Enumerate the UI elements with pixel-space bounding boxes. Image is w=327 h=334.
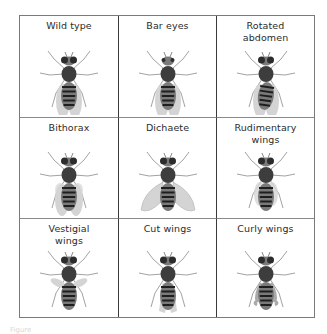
cell-cut-wings: Cut wings [119,219,217,317]
cell-rudimentary-wings: Rudimentary wings [217,118,314,219]
cell-vestigial-wings: Vestigial wings [20,219,119,317]
cell-label: Dichaete [119,122,216,134]
cell-bithorax: Bithorax [20,118,119,219]
cell-wild-type: Wild type [20,16,119,118]
fly-illustration-icon [233,142,299,216]
cell-label: Bar eyes [119,20,216,32]
fly-illustration-icon [36,41,102,115]
cell-bar-eyes: Bar eyes [119,16,217,118]
mutant-fly-grid: Wild type Bar eyes R [19,15,315,318]
fly-illustration-icon [36,142,102,216]
cell-label: Wild type [20,20,118,32]
cell-label: Cut wings [119,223,216,235]
fly-illustration-icon [233,41,299,115]
fly-illustration-icon [135,142,201,216]
cell-curly-wings: Curly wings [217,219,314,317]
fly-illustration-icon [135,241,201,315]
fly-illustration-icon [233,241,299,315]
cell-dichaete: Dichaete [119,118,217,219]
fly-illustration-icon [36,241,102,315]
cell-label: Bithorax [20,122,118,134]
cell-label: Curly wings [217,223,314,235]
figure-caption: Figure [10,326,31,334]
cell-rotated-abdomen: Rotated abdomen [217,16,314,118]
fly-illustration-icon [135,41,201,115]
